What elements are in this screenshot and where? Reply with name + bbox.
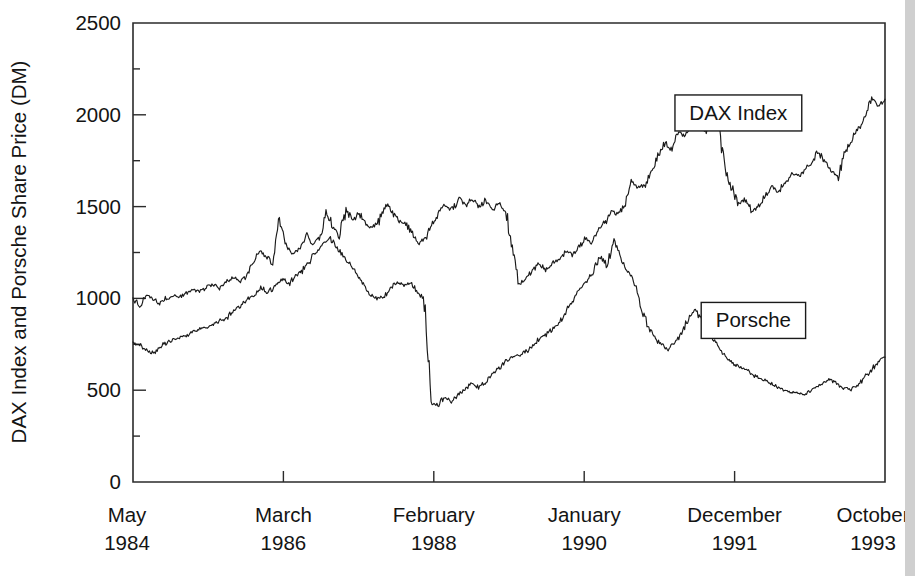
y-tick-label-500: 500: [87, 378, 121, 401]
x-tick-label-month-1: March: [255, 503, 312, 526]
x-tick-label-month-5: October: [837, 503, 910, 526]
x-axis-ticks: May1984March1986February1988January1990D…: [104, 471, 909, 554]
y-tick-label-2000: 2000: [75, 103, 121, 126]
y-tick-label-1000: 1000: [75, 286, 121, 309]
x-tick-label-year-5: 1993: [850, 531, 896, 554]
x-tick-label-year-0: 1984: [104, 531, 150, 554]
x-tick-label-month-0: May: [108, 503, 147, 526]
y-axis-label: DAX Index and Porsche Share Price (DM): [7, 61, 30, 444]
plot-frame: [133, 23, 885, 482]
data-series: [133, 97, 885, 407]
x-tick-label-year-4: 1991: [712, 531, 758, 554]
line-chart: 05001000150020002500 May1984March1986Feb…: [0, 0, 915, 576]
x-tick-label-month-3: January: [548, 503, 622, 526]
x-tick-label-year-1: 1986: [261, 531, 307, 554]
y-tick-label-1500: 1500: [75, 195, 121, 218]
y-tick-label-2500: 2500: [75, 11, 121, 34]
x-tick-label-month-2: February: [393, 503, 476, 526]
y-axis-ticks: 05001000150020002500: [75, 11, 146, 493]
page-edge-strip: [905, 0, 915, 576]
x-tick-label-month-4: December: [687, 503, 782, 526]
series-legends: DAX IndexPorsche: [675, 95, 806, 338]
chart-figure: 05001000150020002500 May1984March1986Feb…: [0, 0, 915, 576]
dax-label-text: DAX Index: [689, 101, 788, 124]
x-tick-label-year-2: 1988: [411, 531, 457, 554]
y-tick-label-0: 0: [110, 470, 121, 493]
plot-border: [133, 23, 885, 482]
x-tick-label-year-3: 1990: [561, 531, 607, 554]
porsche-label-text: Porsche: [716, 308, 791, 331]
